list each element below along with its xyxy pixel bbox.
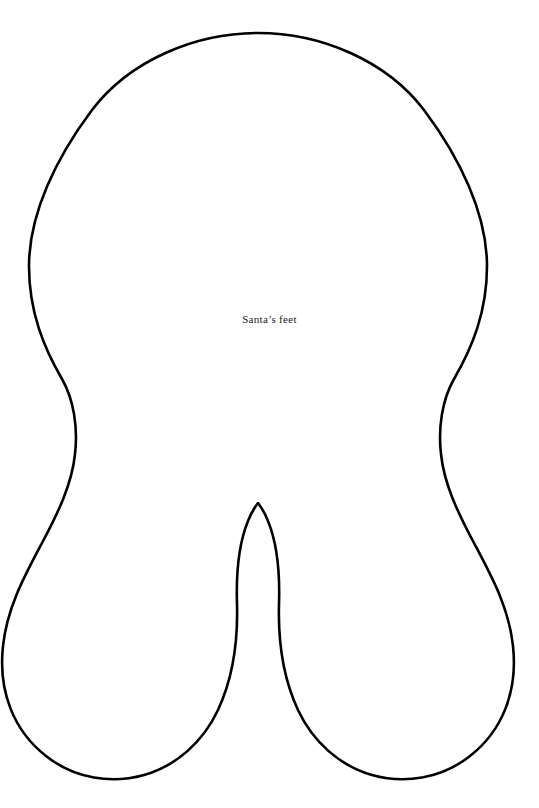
template-page: Santa’s feet	[0, 0, 539, 808]
caption-label: Santa’s feet	[0, 313, 539, 325]
santa-feet-outline-svg	[0, 0, 539, 808]
